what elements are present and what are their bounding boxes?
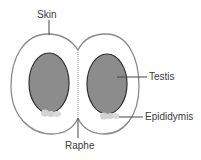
testis-left: [29, 53, 69, 113]
scrotum-diagram: Skin Testis Epididymis Raphe: [0, 0, 201, 160]
testis-label: Testis: [149, 71, 175, 82]
epididymis-right: [100, 113, 120, 120]
skin-label: Skin: [37, 9, 56, 20]
epididymis-label: Epididymis: [145, 111, 193, 122]
testis-right: [87, 54, 127, 114]
raphe-label: Raphe: [65, 140, 95, 151]
